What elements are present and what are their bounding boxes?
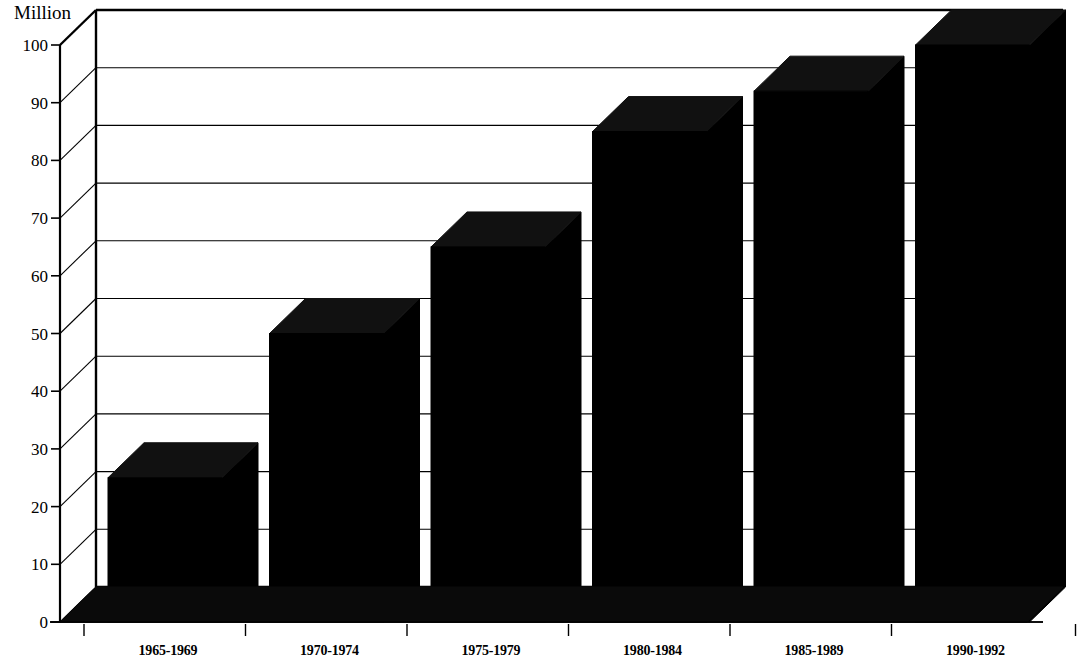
y-axis-tick-label: 10 xyxy=(8,556,48,573)
bar-side-face xyxy=(1030,10,1066,622)
side-wall-rung xyxy=(60,125,96,160)
bar-group[interactable] xyxy=(270,299,420,623)
side-wall-rung xyxy=(60,183,96,218)
bar-front-face xyxy=(593,132,707,622)
y-axis-tick-label: 100 xyxy=(8,37,48,54)
floor-slab-overlay xyxy=(60,587,1063,622)
bar-group[interactable] xyxy=(593,97,743,622)
x-axis-category-label: 1965-1969 xyxy=(98,644,238,658)
y-axis-tick-label: 40 xyxy=(8,383,48,400)
x-axis-category-label: 1975-1979 xyxy=(421,644,561,658)
y-axis-tick-label: 50 xyxy=(8,326,48,343)
y-axis-tick-label: 60 xyxy=(8,268,48,285)
y-axis-tick-label: 70 xyxy=(8,210,48,227)
side-wall-rung xyxy=(60,68,96,103)
side-wall-rung xyxy=(60,414,96,449)
x-axis-category-label: 1980-1984 xyxy=(583,644,723,658)
y-axis-tick-label: 30 xyxy=(8,441,48,458)
bar-front-face xyxy=(431,247,545,622)
side-wall-rung xyxy=(60,529,96,564)
y-axis-title: Million xyxy=(14,3,71,22)
x-axis-category-label: 1985-1989 xyxy=(744,644,884,658)
bar-side-face xyxy=(707,97,743,622)
y-axis-tick-label: 20 xyxy=(8,499,48,516)
side-wall-rung xyxy=(60,241,96,276)
y-axis-tick-label: 80 xyxy=(8,152,48,169)
y-axis-tick-label: 0 xyxy=(8,614,48,631)
bar-side-face xyxy=(545,212,581,622)
bar-front-face xyxy=(916,45,1030,622)
bar-side-face xyxy=(384,299,420,623)
bar-front-face xyxy=(270,334,384,623)
bar-side-face xyxy=(868,56,904,622)
bar-front-face xyxy=(754,91,868,622)
bar-chart-3d: Million 0102030405060708090100 1965-1969… xyxy=(0,0,1077,667)
y-axis-tick-label: 90 xyxy=(8,95,48,112)
bar-group[interactable] xyxy=(431,212,581,622)
side-wall-rung xyxy=(60,472,96,507)
side-wall-rung xyxy=(60,356,96,391)
x-axis-category-label: 1970-1974 xyxy=(260,644,400,658)
chart-canvas xyxy=(0,0,1077,667)
side-wall-rung xyxy=(60,299,96,334)
x-axis-category-label: 1990-1992 xyxy=(906,644,1046,658)
bar-group[interactable] xyxy=(754,56,904,622)
bar-group[interactable] xyxy=(916,10,1066,622)
